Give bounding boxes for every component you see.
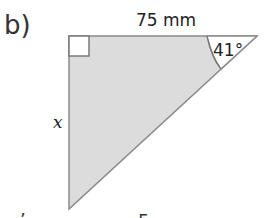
clipped-glyph: 5 — [138, 210, 149, 218]
angle-label: 41° — [213, 40, 243, 60]
part-label: b) — [4, 10, 31, 40]
top-side-label: 75 mm — [136, 10, 196, 30]
clipped-glyph: ’ — [20, 209, 26, 218]
right-angle-marker — [69, 36, 89, 56]
unknown-side-label: x — [53, 112, 63, 132]
triangle-figure — [0, 0, 264, 218]
